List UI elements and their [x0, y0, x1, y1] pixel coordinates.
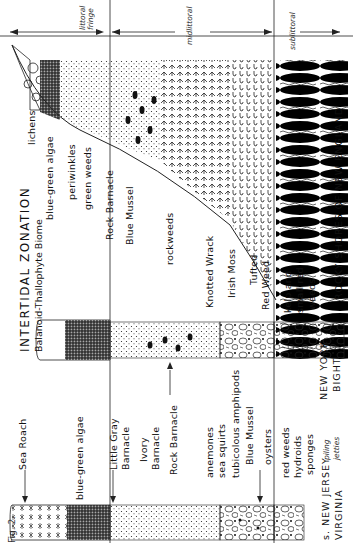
label-barnacle-1: Barnacle: [120, 427, 131, 470]
label-rock-barnacle: Rock Barnacle: [104, 170, 115, 240]
label-red-weeds: red weeds: [280, 427, 291, 478]
label-green-weeds: green weeds: [82, 147, 93, 210]
label-tubicolous-amphipods: tubicolous amphipods: [230, 370, 241, 478]
label-blue-mussel-2: Blue Mussel: [244, 406, 255, 465]
zone-littoral-fringe-l2: fringe: [86, 8, 95, 30]
label-little-gray: Little Gray: [108, 418, 119, 470]
figure-label: Fig. 2.: [7, 516, 17, 543]
label-hydroids: hydroids: [292, 436, 303, 478]
label-irish-moss: Irish Moss: [226, 249, 237, 298]
label-rockweeds: rockweeds: [164, 213, 175, 265]
label-blue-mussel: Blue Mussel: [124, 186, 135, 245]
label-lichens: lichens: [26, 110, 37, 145]
zone-sublittoral: sublittoral: [288, 12, 297, 50]
label-weeds: weeds: [306, 279, 317, 310]
label-blue-green-algae: blue-green algae: [44, 136, 55, 220]
label-blue-green-algae-2: blue-green algae: [74, 416, 85, 500]
region-rocky-shores: ROCKY SHORES OF NEW ENGLAND: [333, 107, 344, 300]
habitat-piling: piling: [322, 439, 331, 460]
label-tufted: Tufted: [248, 255, 259, 285]
label-sea-squirts: sea squirts: [216, 424, 227, 478]
zone-midlittoral: midlittoral: [185, 6, 194, 45]
label-small-red: small red: [294, 267, 305, 313]
figure-subtitle: Balanoid-Thallophyte Biome: [33, 219, 44, 352]
label-rock-barnacle-2: Rock Barnacle: [168, 405, 179, 475]
label-sponges: sponges: [304, 434, 315, 475]
label-oysters: oysters: [262, 429, 273, 465]
label-periwinkles: periwinkles: [66, 144, 77, 200]
region-bight: BIGHT: [331, 357, 342, 392]
label-barnacle-2: Barnacle: [150, 427, 161, 470]
label-knotted-wrack: Knotted Wrack: [204, 236, 215, 308]
label-sea-roach: Sea Roach: [17, 418, 28, 470]
label-kelp-and: kelp and: [282, 271, 293, 313]
label-anemones: anemones: [204, 427, 215, 478]
region-new-jersey: s. NEW JERSEY: [320, 457, 331, 540]
label-red-weed: Red Weed: [260, 261, 271, 310]
habitat-jetties: jetties: [332, 437, 341, 460]
figure-title: INTERTIDAL ZONATION: [18, 187, 32, 352]
label-ivory: Ivory: [138, 437, 149, 462]
region-new-york: NEW YORK: [318, 341, 329, 400]
region-virginia: VIRGINIA: [333, 490, 344, 540]
